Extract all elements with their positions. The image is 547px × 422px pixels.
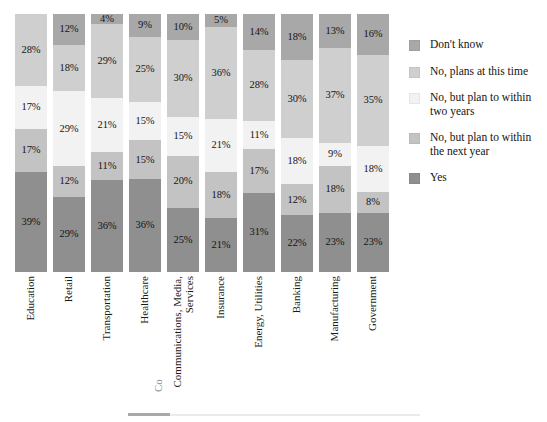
category-label-text: Transportation [101, 276, 113, 340]
bar-segment-value: 14% [250, 27, 269, 38]
bar-segment[interactable]: 13% [319, 14, 351, 48]
bar-segment-value: 9% [138, 20, 152, 31]
bar-segment[interactable]: 5% [205, 14, 237, 27]
bar-segment-value: 31% [250, 227, 269, 238]
bar-segment[interactable]: 21% [91, 98, 123, 152]
bar-segment[interactable]: 28% [15, 14, 47, 86]
bar-column[interactable]: 4%29%21%11%36% [91, 14, 123, 272]
bar-segment[interactable]: 39% [15, 172, 47, 272]
bar-segment[interactable]: 25% [129, 37, 161, 102]
bar-segment[interactable]: 22% [281, 215, 313, 272]
bar-segment-value: 8% [366, 197, 380, 208]
category-label-text: Healthcare [139, 276, 151, 324]
bar-segment[interactable]: 29% [53, 197, 85, 272]
bar-segment[interactable]: 15% [129, 102, 161, 141]
category-label: Communications, Media, Services [167, 276, 199, 406]
bar-column[interactable]: 9%25%15%15%36% [129, 14, 161, 272]
bar-segment-value: 18% [60, 63, 79, 74]
bar-segment[interactable]: 17% [15, 129, 47, 172]
bar-segment[interactable]: 12% [281, 184, 313, 215]
category-label-text: Energy, Utilities [253, 276, 265, 348]
bar-segment[interactable]: 30% [281, 60, 313, 137]
bar-segment-value: 25% [174, 235, 193, 246]
bar-segment-value: 23% [364, 237, 383, 248]
bar-segment[interactable]: 8% [357, 192, 389, 213]
bar-column[interactable]: 13%37%9%18%23% [319, 14, 351, 272]
bar-segment[interactable]: 15% [167, 117, 199, 156]
bar-segment-value: 30% [174, 73, 193, 84]
bar-segment[interactable]: 18% [205, 172, 237, 218]
plot-area: 28%17%17%39%12%18%29%12%29%4%29%21%11%36… [15, 14, 400, 272]
bar-segment[interactable]: 35% [357, 55, 389, 145]
bar-segment-value: 23% [326, 237, 345, 248]
bar-segment[interactable]: 23% [357, 213, 389, 272]
legend-item[interactable]: Don't know [409, 38, 545, 52]
bar-column[interactable]: 18%30%18%12%22% [281, 14, 313, 272]
bar-segment[interactable]: 18% [281, 14, 313, 60]
bar-segment[interactable]: 17% [243, 149, 275, 192]
category-label: Manufacturing [319, 276, 351, 406]
category-label-text: Communications, Media, Services [172, 276, 195, 396]
bar-segment[interactable]: 11% [243, 121, 275, 149]
bar-column[interactable]: 28%17%17%39% [15, 14, 47, 272]
legend-swatch [409, 40, 420, 51]
bar-segment[interactable]: 9% [319, 143, 351, 166]
category-label: Banking [281, 276, 313, 406]
bar-segment[interactable]: 18% [281, 138, 313, 184]
bar-segment-value: 11% [98, 161, 117, 172]
bar-segment[interactable]: 18% [357, 146, 389, 192]
bar-segment-value: 20% [174, 176, 193, 187]
bar-segment[interactable]: 18% [53, 45, 85, 91]
bar-segment-value: 22% [288, 238, 307, 249]
legend-item[interactable]: No, plans at this time [409, 65, 545, 79]
legend-item[interactable]: Yes [409, 171, 545, 185]
bar-segment-value: 12% [60, 24, 79, 35]
bar-segment-value: 37% [326, 90, 345, 101]
bar-segment-value: 35% [364, 95, 383, 106]
bar-segment[interactable]: 28% [243, 50, 275, 122]
bar-segment[interactable]: 29% [53, 91, 85, 166]
bar-segment[interactable]: 36% [91, 180, 123, 272]
category-label: Insurance [205, 276, 237, 406]
bar-segment[interactable]: 36% [205, 27, 237, 119]
bar-column[interactable]: 16%35%18%8%23% [357, 14, 389, 272]
bar-segment[interactable]: 15% [129, 140, 161, 179]
bar-segment[interactable]: 29% [91, 24, 123, 98]
bar-column[interactable]: 14%28%11%17%31% [243, 14, 275, 272]
bar-segment[interactable]: 11% [91, 152, 123, 180]
bar-column[interactable]: 5%36%21%18%21% [205, 14, 237, 272]
bar-segment[interactable]: 10% [167, 14, 199, 40]
bar-segment-value: 15% [136, 155, 155, 166]
legend-label: Don't know [430, 38, 484, 52]
bar-segment[interactable]: 20% [167, 156, 199, 208]
bar-column[interactable]: 10%30%15%20%25% [167, 14, 199, 272]
bar-segment[interactable]: 23% [319, 213, 351, 272]
bar-segment[interactable]: 25% [167, 208, 199, 273]
bar-column[interactable]: 12%18%29%12%29% [53, 14, 85, 272]
bar-segment[interactable]: 9% [129, 14, 161, 37]
legend-item[interactable]: No, but plan to within two years [409, 91, 545, 118]
bar-segment-value: 29% [60, 124, 79, 135]
legend-item[interactable]: No, but plan to within the next year [409, 131, 545, 158]
bar-segment[interactable]: 21% [205, 119, 237, 173]
legend-swatch [409, 67, 420, 78]
bar-segment[interactable]: 12% [53, 14, 85, 45]
bar-segment[interactable]: 18% [319, 166, 351, 212]
bar-segment-value: 30% [288, 94, 307, 105]
legend-label: Yes [430, 171, 447, 185]
bar-segment-value: 28% [22, 45, 41, 56]
category-label: Education [15, 276, 47, 406]
bar-segment[interactable]: 4% [91, 14, 123, 24]
bar-segment[interactable]: 12% [53, 166, 85, 197]
bar-segment[interactable]: 36% [129, 179, 161, 272]
bar-segment[interactable]: 16% [357, 14, 389, 55]
bar-segment[interactable]: 31% [243, 193, 275, 272]
bar-segment[interactable]: 14% [243, 14, 275, 50]
bar-segment[interactable]: 17% [15, 86, 47, 129]
bar-segment-value: 5% [214, 15, 228, 26]
category-label-text: Government [367, 276, 379, 331]
bar-segment[interactable]: 30% [167, 40, 199, 117]
category-label: Energy, Utilities [243, 276, 275, 406]
bar-segment[interactable]: 21% [205, 218, 237, 272]
bar-segment[interactable]: 37% [319, 48, 351, 143]
